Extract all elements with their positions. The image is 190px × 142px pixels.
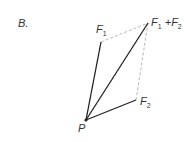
label-f1-base: F xyxy=(96,23,103,35)
vectors xyxy=(84,23,148,122)
panel-label: B. xyxy=(18,18,28,29)
label-f2: F2 xyxy=(140,96,151,109)
label-sum: F1 +F2 xyxy=(151,17,182,30)
label-sum-b: F xyxy=(171,16,178,28)
label-sum-a: F xyxy=(151,16,158,28)
label-f2-sub: 2 xyxy=(147,102,151,109)
vector-f2 xyxy=(86,100,136,120)
dashed-line-f2-to-sum xyxy=(136,23,148,100)
label-f1: F1 xyxy=(96,24,107,37)
label-p: P xyxy=(78,123,85,134)
label-f1-sub: 1 xyxy=(103,30,107,37)
label-f2-base: F xyxy=(140,95,147,107)
dashed-line-f1-to-sum xyxy=(101,23,148,42)
label-sum-op: + xyxy=(162,16,171,28)
label-sum-b-sub: 2 xyxy=(178,23,182,30)
